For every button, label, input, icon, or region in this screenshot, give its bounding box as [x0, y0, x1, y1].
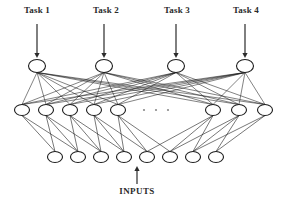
- input-node: [140, 152, 155, 163]
- output-layer-nodes: [29, 60, 254, 73]
- edge-hidden-input: [94, 116, 124, 152]
- edge-output-hidden: [70, 73, 176, 105]
- input-node: [48, 152, 63, 163]
- edge-hidden-input: [216, 116, 239, 152]
- inputs-arrow-head: [134, 166, 139, 171]
- input-node: [94, 152, 109, 163]
- edge-output-hidden: [37, 73, 265, 105]
- edge-output-hidden: [104, 73, 265, 105]
- input-layer-nodes: [48, 152, 224, 163]
- edge-hidden-input: [70, 116, 124, 152]
- input-node: [71, 152, 86, 163]
- task-arrow-1-head: [34, 53, 39, 58]
- hidden-node: [206, 105, 221, 116]
- edge-hidden-input: [118, 116, 124, 152]
- ellipsis-dot: [155, 109, 157, 111]
- task-arrow-3-head: [173, 53, 178, 58]
- task-arrow-4-head: [242, 53, 247, 58]
- hidden-node: [111, 105, 126, 116]
- hidden-node: [39, 105, 54, 116]
- hidden-layer-ellipsis: [143, 109, 169, 111]
- edge-hidden-input: [193, 116, 239, 152]
- output-node: [29, 60, 46, 73]
- edge-output-hidden: [245, 73, 265, 105]
- output-node: [96, 60, 113, 73]
- task-label-4: Task 4: [233, 5, 259, 15]
- output-node: [237, 60, 254, 73]
- output-node: [168, 60, 185, 73]
- edges-output-to-hidden: [22, 73, 265, 105]
- hidden-node: [63, 105, 78, 116]
- inputs-label: INPUTS: [119, 186, 154, 196]
- hidden-node: [15, 105, 30, 116]
- hidden-node: [87, 105, 102, 116]
- edge-hidden-input: [118, 116, 147, 152]
- task-arrow-2-head: [101, 53, 106, 58]
- edge-hidden-input: [70, 116, 101, 152]
- neural-network-diagram: Task 1 Task 2 Task 3 Task 4 INPUTS: [0, 0, 281, 211]
- edge-hidden-input: [216, 116, 265, 152]
- network-canvas: [0, 0, 281, 211]
- edge-hidden-input: [94, 116, 147, 152]
- input-node: [186, 152, 201, 163]
- edge-hidden-input: [70, 116, 78, 152]
- ellipsis-dot: [143, 109, 145, 111]
- ellipsis-dot: [167, 109, 169, 111]
- edge-output-hidden: [176, 73, 265, 105]
- edge-output-hidden: [46, 73, 245, 105]
- edge-hidden-input: [118, 116, 170, 152]
- edges-hidden-to-input: [22, 116, 265, 152]
- edge-output-hidden: [94, 73, 245, 105]
- edge-output-hidden: [22, 73, 245, 105]
- hidden-node: [232, 105, 247, 116]
- edge-hidden-input: [170, 116, 213, 152]
- task-label-2: Task 2: [93, 5, 119, 15]
- input-node: [163, 152, 178, 163]
- input-node: [209, 152, 224, 163]
- hidden-node: [258, 105, 273, 116]
- task-label-3: Task 3: [164, 5, 190, 15]
- input-node: [117, 152, 132, 163]
- edge-hidden-input: [94, 116, 101, 152]
- task-label-1: Task 1: [24, 5, 50, 15]
